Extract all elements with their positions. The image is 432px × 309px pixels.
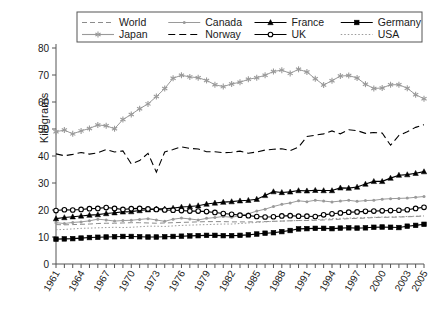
chart-figure: Kilograms 010203040506070801961196419671… xyxy=(0,0,432,309)
data-point xyxy=(356,200,359,203)
data-point xyxy=(213,216,216,219)
data-point xyxy=(113,220,116,223)
data-point xyxy=(372,209,377,214)
data-point xyxy=(229,233,234,238)
legend: WorldCanadaFranceGermanyJapanNorwayUKUSA xyxy=(77,12,422,42)
data-point xyxy=(288,228,293,233)
data-point xyxy=(397,197,400,200)
data-point xyxy=(397,225,402,230)
data-point xyxy=(347,199,350,202)
y-tick-label: 10 xyxy=(38,232,50,243)
data-point xyxy=(254,232,259,237)
data-point xyxy=(55,221,58,224)
data-point xyxy=(405,207,410,212)
data-point xyxy=(254,214,259,219)
data-point xyxy=(380,209,385,214)
data-point xyxy=(129,206,134,211)
data-point xyxy=(280,203,283,206)
data-point xyxy=(121,207,126,212)
data-point xyxy=(380,225,385,230)
data-point xyxy=(421,169,426,174)
data-point xyxy=(63,222,66,225)
x-tick-label: 1991 xyxy=(292,268,313,293)
data-point xyxy=(54,208,59,213)
data-point xyxy=(180,217,183,220)
data-point xyxy=(147,217,150,220)
data-point xyxy=(413,223,418,228)
data-point xyxy=(372,199,375,202)
y-tick-label: 50 xyxy=(38,124,50,135)
data-point xyxy=(397,208,402,213)
data-point xyxy=(221,233,226,238)
data-point xyxy=(305,226,310,231)
y-tick-label: 40 xyxy=(38,151,50,162)
data-point xyxy=(322,200,325,203)
data-point xyxy=(388,208,393,213)
data-point xyxy=(204,209,209,214)
data-point xyxy=(355,210,360,215)
data-point xyxy=(155,218,158,221)
line-chart: 0102030405060708019611964196719701973197… xyxy=(0,0,432,309)
x-tick-label: 1994 xyxy=(317,268,338,293)
data-point xyxy=(346,210,351,215)
data-point xyxy=(271,214,276,219)
data-point xyxy=(339,200,342,203)
data-point xyxy=(321,213,326,218)
data-point xyxy=(296,214,301,219)
data-point xyxy=(364,199,367,202)
x-tick-label: 1964 xyxy=(66,268,87,293)
data-point xyxy=(104,235,109,240)
x-tick-label: 1982 xyxy=(217,268,238,293)
data-point xyxy=(105,218,108,221)
series-norway xyxy=(56,125,424,173)
data-point xyxy=(183,21,186,24)
data-point xyxy=(87,206,92,211)
data-point xyxy=(179,208,184,213)
data-point xyxy=(271,230,276,235)
data-point xyxy=(330,226,335,231)
y-tick-label: 0 xyxy=(43,259,49,270)
data-point xyxy=(96,218,99,221)
data-point xyxy=(96,235,101,240)
data-point xyxy=(363,209,368,214)
series-germany xyxy=(54,222,427,241)
data-point xyxy=(263,231,268,236)
x-tick-label: 1967 xyxy=(91,268,112,293)
y-tick-label: 70 xyxy=(38,70,50,81)
legend-label: France xyxy=(292,16,325,28)
data-point xyxy=(372,225,377,230)
x-tick-label: 1976 xyxy=(167,268,188,293)
data-point xyxy=(330,211,335,216)
data-point xyxy=(171,234,176,239)
data-point xyxy=(179,234,184,239)
data-point xyxy=(229,212,234,217)
data-point xyxy=(88,219,91,222)
x-tick-label: 1961 xyxy=(41,268,62,293)
data-point xyxy=(154,207,159,212)
data-point xyxy=(197,218,200,221)
series-line xyxy=(56,69,424,134)
data-point xyxy=(264,208,267,211)
legend-label: Germany xyxy=(378,16,422,28)
x-tick-label: 1997 xyxy=(342,268,363,293)
data-point xyxy=(137,234,142,239)
data-point xyxy=(138,218,141,221)
data-point xyxy=(163,220,166,223)
data-point xyxy=(137,206,142,211)
data-point xyxy=(288,213,293,218)
data-point xyxy=(213,210,218,215)
data-point xyxy=(188,217,191,220)
data-point xyxy=(80,220,83,223)
x-tick-label: 2000 xyxy=(367,268,388,293)
series-japan xyxy=(53,66,426,137)
data-point xyxy=(213,233,218,238)
x-tick-label: 1988 xyxy=(267,268,288,293)
legend-label: Canada xyxy=(205,16,242,28)
legend-label: USA xyxy=(378,28,400,40)
data-point xyxy=(129,234,134,239)
x-tick-label: 1970 xyxy=(116,268,137,293)
data-point xyxy=(87,235,92,240)
data-point xyxy=(62,237,67,242)
data-point xyxy=(321,226,326,231)
data-point xyxy=(280,214,285,219)
